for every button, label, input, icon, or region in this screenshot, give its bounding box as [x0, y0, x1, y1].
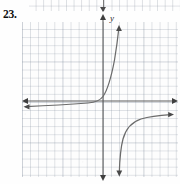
curve-arrow-up-icon [116, 25, 122, 31]
curve-arrow-down-icon [116, 171, 122, 177]
arrow-left-icon [22, 98, 28, 104]
curve-arrow-left-icon [24, 104, 30, 109]
curve-arrow-right-icon [168, 112, 174, 117]
problem-figure: 23. y [0, 0, 180, 184]
coordinate-plot [0, 0, 180, 184]
arrow-right-icon [172, 98, 178, 104]
arrow-down-icon [100, 175, 106, 181]
arrow-up-icon [100, 14, 106, 20]
curve-right-branch [119, 115, 170, 173]
curve-left-branch [26, 29, 119, 107]
